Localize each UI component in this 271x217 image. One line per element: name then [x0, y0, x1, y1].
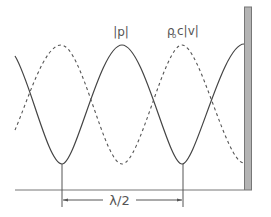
pressure-curve — [15, 44, 244, 164]
arrowhead-right-icon — [177, 199, 182, 202]
arrowhead-left-icon — [63, 199, 68, 202]
standing-wave-diagram: λ/2 |p| ρ o c|v| — [0, 0, 271, 217]
wavelength-label: λ/2 — [109, 193, 129, 208]
rigid-wall — [245, 7, 252, 190]
velocity-label-sub: o — [172, 32, 176, 40]
pressure-label: |p| — [113, 25, 129, 39]
velocity-label-rest: c|v| — [177, 24, 199, 38]
